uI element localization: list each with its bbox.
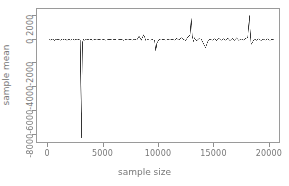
y-axis-tick-label: -6000 [26, 109, 35, 133]
y-axis-tick-label: 2000 [26, 15, 35, 36]
x-axis-tick [103, 143, 104, 147]
y-axis-tick-label: -4000 [26, 86, 35, 110]
x-axis-tick-label: 15000 [193, 149, 233, 158]
y-axis-tick-label: 0 [26, 38, 35, 43]
y-axis-tick-label: -2000 [26, 62, 35, 86]
x-axis-tick [47, 143, 48, 147]
plot-area [36, 8, 280, 143]
chart-screenshot: 0500010000150002000020000-2000-4000-6000… [0, 0, 289, 186]
x-axis-tick-label: 10000 [138, 149, 178, 158]
y-axis-tick-label: -8000 [26, 133, 35, 157]
y-axis-label: sample mean [1, 44, 11, 105]
x-axis-label: sample size [0, 167, 289, 177]
x-axis-tick-label: 20000 [249, 149, 289, 158]
x-axis-tick [158, 143, 159, 147]
x-axis-tick-label: 5000 [83, 149, 123, 158]
x-axis-tick [269, 143, 270, 147]
x-axis-tick [213, 143, 214, 147]
data-series-canvas [37, 9, 281, 144]
